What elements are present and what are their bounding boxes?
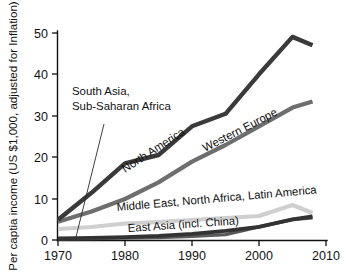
x-tick-label-1990: 1990 (178, 249, 206, 263)
x-axis-ticks (58, 241, 326, 247)
y-tick-label-0: 0 (41, 234, 48, 248)
y-tick-label-50: 50 (34, 27, 48, 41)
callout-label-line1: South Asia, (72, 85, 130, 97)
y-axis-ticks (52, 33, 58, 240)
y-tick-label-20: 20 (34, 151, 48, 165)
callout-leader-line (76, 124, 104, 237)
y-tick-label-30: 30 (34, 110, 48, 124)
y-tick-label-10: 10 (34, 193, 48, 207)
x-tick-label-2010: 2010 (312, 249, 340, 263)
y-axis-title: Per captia income (US $1,000, adjusted f… (6, 1, 19, 271)
x-tick-label-2000: 2000 (245, 249, 273, 263)
x-tick-label-1980: 1980 (111, 249, 139, 263)
chart-container: 50 40 30 20 10 0 1970 1980 1990 2000 201… (0, 0, 346, 273)
series-label-north-america: North America (120, 125, 188, 175)
callout-label-line2: Sub-Saharan Africa (72, 100, 171, 112)
y-tick-label-40: 40 (34, 68, 48, 82)
line-chart: 50 40 30 20 10 0 1970 1980 1990 2000 201… (0, 0, 346, 273)
x-tick-label-1970: 1970 (44, 249, 72, 263)
series-label-western-europe: Western Europe (200, 106, 279, 154)
